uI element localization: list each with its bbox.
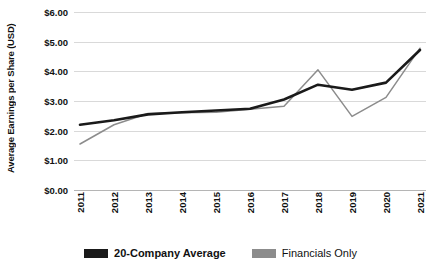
y-tick-label: $6.00 <box>44 7 68 18</box>
y-axis-title: Average Earnings per Share (USD) <box>2 18 18 178</box>
x-tick-label: 2015 <box>211 192 222 213</box>
x-tick-label: 2011 <box>75 192 86 213</box>
plot-area <box>74 12 426 190</box>
legend-item[interactable]: Financials Only <box>252 247 357 259</box>
series-line <box>80 50 420 125</box>
x-tick-label: 2018 <box>313 192 324 213</box>
legend-label: Financials Only <box>282 247 357 259</box>
x-tick-label: 2014 <box>177 192 188 213</box>
series-line <box>80 48 420 144</box>
legend-label: 20-Company Average <box>114 247 226 259</box>
chart-legend: 20-Company AverageFinancials Only <box>0 243 441 263</box>
y-tick-label: $3.00 <box>44 96 68 107</box>
legend-swatch <box>252 249 276 258</box>
x-tick-label: 2012 <box>109 192 120 213</box>
x-tick-label: 2016 <box>245 192 256 213</box>
x-tick-label: 2019 <box>347 192 358 213</box>
x-tick-label: 2021 <box>415 192 426 213</box>
axis-baseline <box>74 190 426 191</box>
y-tick-label: $1.00 <box>44 155 68 166</box>
x-tick-label: 2017 <box>279 192 290 213</box>
line-chart: Average Earnings per Share (USD) $6.00$5… <box>0 0 441 267</box>
y-tick-label: $5.00 <box>44 36 68 47</box>
legend-item[interactable]: 20-Company Average <box>84 247 226 259</box>
series-lines <box>74 12 426 190</box>
x-axis-tick-labels: 2011201220132014201520162017201820192020… <box>74 192 426 236</box>
y-tick-label: $4.00 <box>44 66 68 77</box>
y-tick-label: $2.00 <box>44 125 68 136</box>
x-tick-label: 2013 <box>143 192 154 213</box>
x-tick-label: 2020 <box>381 192 392 213</box>
legend-swatch <box>84 249 108 258</box>
y-axis-tick-labels: $6.00$5.00$4.00$3.00$2.00$1.00$0.00 <box>30 0 72 200</box>
y-tick-label: $0.00 <box>44 185 68 196</box>
